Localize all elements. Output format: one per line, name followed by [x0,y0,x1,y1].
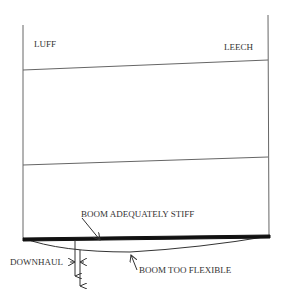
luff-label: LUFF [34,39,56,49]
stiff-boom-line [23,235,270,241]
sail-boom-diagram: LUFF LEECH BOOM ADEQUATELY STIFF DOWNHAU… [0,0,284,302]
boom-flexible-label: BOOM TOO FLEXIBLE [139,265,232,275]
middle-batten-line [23,157,268,165]
boom-stiff-label: BOOM ADEQUATELY STIFF [81,209,194,219]
flexible-leader-arrow [131,255,137,270]
leech-line [268,15,269,236]
leech-label: LEECH [224,42,253,52]
downhaul-label: DOWNHAUL [10,257,63,267]
upper-batten-line [23,60,268,70]
